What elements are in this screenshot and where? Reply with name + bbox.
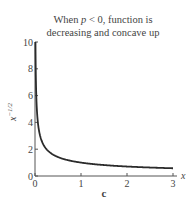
chart: When p < 0, function is decreasing and c… (0, 0, 193, 208)
x-tick-label: 1 (79, 178, 84, 189)
series-line-x-neg-half (35, 42, 173, 168)
x-tick-label: 3 (171, 178, 176, 189)
y-tick-label: 6 (28, 90, 33, 101)
y-axis-label: x−1/2 (6, 102, 18, 122)
y-tick-label: 10 (23, 37, 33, 48)
chart-title-line-1: When p < 0, function is (53, 14, 152, 25)
chart-title-line-2: decreasing and concave up (47, 27, 160, 38)
x-tick-label: 0 (33, 178, 38, 189)
ticks: 02468100123 (23, 37, 176, 190)
y-tick-label: 2 (28, 144, 33, 155)
x-tick-label: 2 (125, 178, 130, 189)
y-tick-label: 8 (28, 63, 33, 74)
series (35, 42, 173, 168)
panel-label: c (102, 187, 107, 199)
y-tick-label: 4 (28, 117, 33, 128)
x-axis-label: x (180, 170, 186, 181)
